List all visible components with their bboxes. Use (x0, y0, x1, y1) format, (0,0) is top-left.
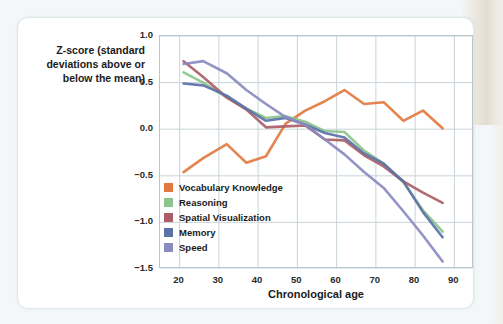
x-tick-label: 70 (361, 274, 389, 285)
y-tick-label: −1.0 (119, 215, 153, 226)
legend-color-swatch (164, 183, 173, 192)
x-tick-label: 90 (439, 274, 467, 285)
legend-item-label: Speed (179, 242, 208, 253)
x-tick-label: 20 (165, 274, 193, 285)
y-tick-label: 0.5 (119, 76, 153, 87)
legend-item: Reasoning (164, 196, 283, 208)
legend-color-swatch (164, 228, 173, 237)
x-tick-label: 30 (204, 274, 232, 285)
legend-item-label: Spatial Visualization (179, 212, 271, 223)
legend-item-label: Memory (179, 227, 215, 238)
chart-legend: Vocabulary KnowledgeReasoningSpatial Vis… (164, 181, 283, 253)
legend-color-swatch (164, 213, 173, 222)
line-chart: Z-score (standard deviations above or be… (0, 0, 503, 324)
y-tick-label: −0.5 (119, 169, 153, 180)
x-tick-label: 80 (400, 274, 428, 285)
legend-color-swatch (164, 198, 173, 207)
y-tick-label: −1.5 (119, 262, 153, 273)
legend-item-label: Reasoning (179, 197, 228, 208)
legend-item: Speed (164, 241, 283, 253)
x-axis-title: Chronological age (159, 288, 473, 300)
x-tick-label: 40 (243, 274, 271, 285)
y-tick-label: 0.0 (119, 122, 153, 133)
x-tick-label: 60 (322, 274, 350, 285)
legend-color-swatch (164, 243, 173, 252)
legend-item: Spatial Visualization (164, 211, 283, 223)
x-tick-label: 50 (282, 274, 310, 285)
legend-item-label: Vocabulary Knowledge (179, 182, 283, 193)
legend-item: Vocabulary Knowledge (164, 181, 283, 193)
y-tick-label: 1.0 (119, 29, 153, 40)
legend-item: Memory (164, 226, 283, 238)
